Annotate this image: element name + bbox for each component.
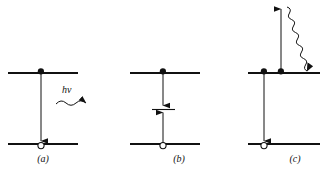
panel-c-relaxation-wave (287, 7, 307, 71)
panel-c-caption: (c) (275, 153, 315, 164)
panel-c-hole-circle (261, 143, 267, 149)
panel-b-electron-dot (160, 68, 166, 74)
panel-a-hole-circle (38, 143, 44, 149)
panel-a (8, 68, 86, 149)
panel-a-caption: (a) (23, 153, 63, 164)
energy-level-diagram (0, 0, 328, 175)
panel-a-photon-wave (56, 101, 86, 106)
panel-c (248, 7, 320, 149)
panel-b-caption: (b) (159, 153, 199, 164)
panel-b-hole-circle (160, 143, 166, 149)
photon-energy-label: hν (62, 84, 71, 95)
panel-b (130, 68, 200, 149)
panel-c-electron-dot-2 (278, 68, 284, 74)
panel-c-electron-dot-1 (261, 68, 267, 74)
panel-a-electron-dot (38, 68, 44, 74)
